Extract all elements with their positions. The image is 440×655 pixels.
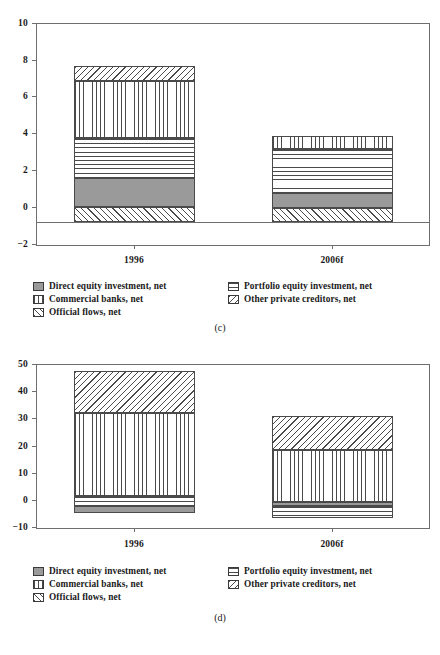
legend-swatch-horizontal-hatch-icon (228, 567, 239, 576)
x-tick-label-c-2006f: 2006f (302, 255, 362, 265)
y-tick-label-d-20: 20 (2, 441, 28, 451)
bar-c-1996[interactable] (74, 66, 195, 222)
x-tick-label-c-1996: 1996 (104, 255, 164, 265)
y-axis-d (36, 364, 37, 528)
y-tick-label-d-30: 30 (2, 413, 28, 423)
y-tick-d-50 (32, 364, 36, 365)
bar-segment-commercial-banks (74, 81, 195, 138)
legend-label: Commercial banks, net (49, 294, 143, 304)
legend-item-direct-equity-investment[interactable]: Direct equity investment, net (33, 281, 166, 291)
y-tick-c-m2 (32, 244, 36, 245)
bar-segment-portfolio-equity (74, 138, 195, 178)
y-tick-label-c-m2: −2 (2, 239, 28, 249)
bar-c-2006f[interactable] (272, 136, 393, 222)
panel-caption-d: (d) (0, 612, 440, 623)
legend-swatch-solid-gray-icon (33, 567, 44, 576)
bar-segment-direct-equity (74, 178, 195, 207)
y-tick-d-10 (32, 473, 36, 474)
stack-base-line-c (36, 222, 430, 223)
legend-label: Other private creditors, net (244, 579, 356, 589)
bar-segment-direct-equity (272, 193, 393, 208)
y-tick-d-m10 (32, 527, 36, 528)
legend-label: Portfolio equity investment, net (244, 281, 372, 291)
legend-item-direct-equity-investment[interactable]: Direct equity investment, net (33, 566, 166, 576)
y-tick-label-c-6: 6 (2, 91, 28, 101)
bar-d-2006f[interactable] (272, 416, 393, 518)
legend-item-portfolio-equity-investment[interactable]: Portfolio equity investment, net (228, 281, 372, 291)
x-axis-d (36, 528, 430, 529)
x-tick-d-1996 (134, 528, 135, 532)
legend-label: Direct equity investment, net (49, 281, 166, 291)
y-tick-label-d-m10: −10 (2, 522, 28, 532)
legend-label: Official flows, net (49, 592, 121, 602)
plot-right-border-c (429, 23, 430, 245)
y-tick-c-6 (32, 96, 36, 97)
x-axis-c (36, 245, 430, 246)
legend-label: Commercial banks, net (49, 579, 143, 589)
y-tick-d-20 (32, 446, 36, 447)
y-tick-label-c-8: 8 (2, 55, 28, 65)
y-tick-label-d-50: 50 (2, 359, 28, 369)
bar-segment-other-private-creditors (74, 371, 195, 413)
bar-segment-official-flows (74, 207, 195, 222)
panel-d: 50 40 30 20 10 0 −10 1996 2006f Direct e… (0, 330, 440, 655)
bar-segment-commercial-banks (272, 450, 393, 502)
y-tick-c-8 (32, 60, 36, 61)
legend-label: Other private creditors, net (244, 294, 356, 304)
bar-d-1996[interactable] (74, 371, 195, 513)
y-tick-c-10 (32, 23, 36, 24)
y-tick-c-2 (32, 170, 36, 171)
legend-item-official-flows[interactable]: Official flows, net (33, 592, 121, 602)
legend-item-other-private-creditors[interactable]: Other private creditors, net (228, 579, 356, 589)
plot-top-border-c (36, 23, 430, 24)
y-tick-c-4 (32, 133, 36, 134)
bar-segment-portfolio-equity (272, 149, 393, 193)
legend-item-portfolio-equity-investment[interactable]: Portfolio equity investment, net (228, 566, 372, 576)
bar-segment-portfolio-equity (272, 506, 393, 518)
bar-segment-other-private-creditors (272, 416, 393, 450)
legend-swatch-solid-gray-icon (33, 282, 44, 291)
legend-item-commercial-banks[interactable]: Commercial banks, net (33, 294, 143, 304)
x-tick-label-d-1996: 1996 (104, 539, 164, 549)
legend-swatch-horizontal-hatch-icon (228, 282, 239, 291)
legend-swatch-diagonal-up-hatch-icon (33, 593, 44, 602)
plot-top-border-d (36, 364, 430, 365)
legend-swatch-diagonal-down-hatch-icon (228, 295, 239, 304)
y-tick-label-d-10: 10 (2, 468, 28, 478)
y-tick-d-40 (32, 391, 36, 392)
bar-segment-direct-equity (74, 506, 195, 513)
bar-segment-other-private-creditors (74, 66, 195, 81)
legend-swatch-vertical-hatch-icon (33, 295, 44, 304)
bar-segment-commercial-banks (272, 136, 393, 149)
y-tick-label-d-40: 40 (2, 386, 28, 396)
x-tick-c-1996 (134, 245, 135, 249)
y-tick-label-c-2: 2 (2, 165, 28, 175)
panel-c: 10 8 6 4 2 0 −2 1996 2006f Direct equity… (0, 0, 440, 330)
legend-item-other-private-creditors[interactable]: Other private creditors, net (228, 294, 356, 304)
legend-swatch-diagonal-up-hatch-icon (33, 308, 44, 317)
y-axis-c (36, 23, 37, 245)
y-tick-d-30 (32, 418, 36, 419)
legend-label: Direct equity investment, net (49, 566, 166, 576)
plot-right-border-d (429, 364, 430, 528)
x-tick-c-2006f (332, 245, 333, 249)
y-tick-label-c-4: 4 (2, 128, 28, 138)
y-tick-label-c-0: 0 (2, 202, 28, 212)
y-tick-d-0 (32, 500, 36, 501)
y-tick-c-0 (32, 207, 36, 208)
legend-swatch-vertical-hatch-icon (33, 580, 44, 589)
y-tick-label-c-10: 10 (2, 18, 28, 28)
x-tick-d-2006f (332, 528, 333, 532)
x-tick-label-d-2006f: 2006f (302, 539, 362, 549)
bar-segment-commercial-banks (74, 413, 195, 496)
legend-item-official-flows[interactable]: Official flows, net (33, 307, 121, 317)
bar-segment-official-flows (272, 208, 393, 222)
legend-swatch-diagonal-down-hatch-icon (228, 580, 239, 589)
legend-label: Portfolio equity investment, net (244, 566, 372, 576)
y-tick-label-d-0: 0 (2, 495, 28, 505)
legend-label: Official flows, net (49, 307, 121, 317)
legend-item-commercial-banks[interactable]: Commercial banks, net (33, 579, 143, 589)
bar-segment-portfolio-equity (74, 496, 195, 506)
